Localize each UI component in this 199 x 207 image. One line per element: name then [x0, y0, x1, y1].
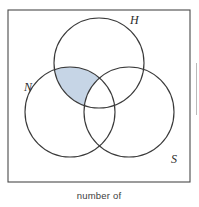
venn-diagram-figure: H N S number of	[0, 0, 199, 207]
scan-edge-artifact	[196, 63, 197, 115]
figure-caption: number of	[77, 190, 122, 201]
set-label-h: H	[129, 13, 140, 27]
venn-diagram-canvas: H N S number of	[0, 0, 199, 207]
set-label-s: S	[171, 152, 177, 166]
set-label-n: N	[23, 80, 33, 94]
